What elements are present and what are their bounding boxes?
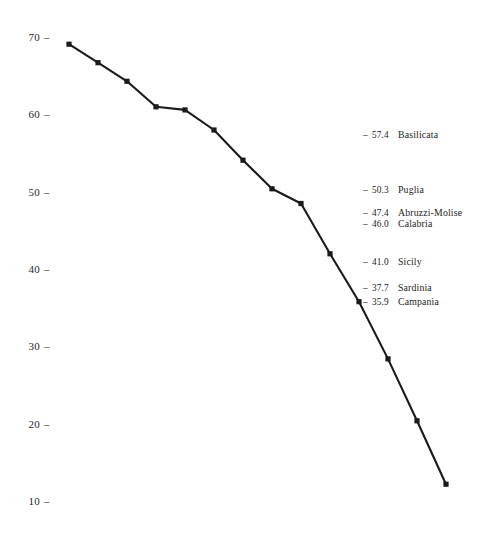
data-point-marker bbox=[240, 158, 245, 163]
annotation-dash: – bbox=[363, 284, 372, 294]
annotation-region-name: Sicily bbox=[398, 257, 422, 267]
data-point-marker bbox=[443, 482, 448, 487]
annotation-region-name: Sardinia bbox=[398, 283, 432, 293]
annotation-value: 57.4 bbox=[372, 131, 394, 140]
annotation-value: 37.7 bbox=[372, 284, 394, 293]
y-axis-tick-label: 70 bbox=[14, 31, 40, 43]
annotation-region-name: Abruzzi-Molise bbox=[398, 208, 462, 218]
annotation-puglia: –50.3Puglia bbox=[363, 185, 424, 196]
y-axis-tick-mark: – bbox=[44, 31, 50, 43]
data-point-marker bbox=[124, 79, 129, 84]
annotation-value: 50.3 bbox=[372, 186, 394, 195]
y-axis-tick-label: 20 bbox=[14, 418, 40, 430]
annotation-dash: – bbox=[363, 258, 372, 268]
annotation-basilicata: –57.4Basilicata bbox=[363, 130, 438, 141]
data-point-marker bbox=[182, 107, 187, 112]
annotation-sicily: –41.0Sicily bbox=[363, 257, 422, 268]
y-axis-tick-mark: – bbox=[44, 108, 50, 120]
y-axis-tick-mark: – bbox=[44, 263, 50, 275]
data-point-marker bbox=[385, 356, 390, 361]
y-axis-tick-mark: – bbox=[44, 418, 50, 430]
annotation-sardinia: –37.7Sardinia bbox=[363, 283, 432, 294]
annotation-value: 47.4 bbox=[372, 209, 394, 218]
annotation-abruzzi-molise: –47.4Abruzzi-Molise bbox=[363, 208, 462, 219]
data-point-marker bbox=[269, 186, 274, 191]
annotation-region-name: Puglia bbox=[398, 185, 424, 195]
data-point-marker bbox=[327, 251, 332, 256]
annotation-calabria: –46.0Calabria bbox=[363, 219, 432, 230]
y-axis-tick-mark: – bbox=[44, 495, 50, 507]
data-point-marker bbox=[298, 201, 303, 206]
y-axis-tick-label: 50 bbox=[14, 186, 40, 198]
annotation-dash: – bbox=[363, 220, 372, 230]
annotation-value: 35.9 bbox=[372, 298, 394, 307]
data-point-marker bbox=[95, 60, 100, 65]
annotation-region-name: Campania bbox=[398, 297, 439, 307]
annotation-region-name: Calabria bbox=[398, 219, 432, 229]
annotation-region-name: Basilicata bbox=[398, 130, 438, 140]
annotation-dash: – bbox=[363, 186, 372, 196]
annotation-dash: – bbox=[363, 209, 372, 219]
y-axis-tick-mark: – bbox=[44, 340, 50, 352]
data-point-marker bbox=[153, 104, 158, 109]
annotation-value: 46.0 bbox=[372, 220, 394, 229]
annotation-dash: – bbox=[363, 131, 372, 141]
y-axis-tick-label: 60 bbox=[14, 108, 40, 120]
annotation-value: 41.0 bbox=[372, 258, 394, 267]
y-axis-tick-label: 30 bbox=[14, 340, 40, 352]
chart-container: 70–60–50–40–30–20–10– –57.4Basilicata–50… bbox=[0, 0, 482, 535]
data-point-marker bbox=[356, 299, 361, 304]
data-point-marker bbox=[211, 127, 216, 132]
annotation-dash: – bbox=[363, 298, 372, 308]
y-axis-tick-label: 40 bbox=[14, 263, 40, 275]
y-axis-tick-mark: – bbox=[44, 186, 50, 198]
data-point-marker bbox=[414, 418, 419, 423]
annotation-campania: –35.9Campania bbox=[363, 297, 439, 308]
data-point-marker bbox=[66, 42, 71, 47]
y-axis-tick-label: 10 bbox=[14, 495, 40, 507]
